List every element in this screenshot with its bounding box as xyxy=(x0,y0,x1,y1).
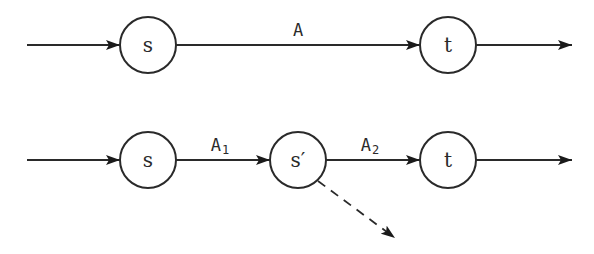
top-node-t-label: t xyxy=(444,33,452,57)
bottom-node-s-label: s xyxy=(143,148,153,172)
bottom-edge-label-a1: A1 xyxy=(211,135,229,157)
bottom-node-s-prime-label: s′ xyxy=(291,148,306,172)
bottom-node-t-label: t xyxy=(444,148,452,172)
bottom-dashed-exit-edge xyxy=(318,181,395,238)
top-node-s: s xyxy=(120,17,176,73)
top-node-s-label: s xyxy=(143,33,153,57)
top-edge-label-a: A xyxy=(293,20,303,40)
top-row: A s t xyxy=(27,17,572,73)
bottom-node-s: s xyxy=(120,132,176,188)
diagram-canvas: A s t A1 A2 s s′ t xyxy=(0,0,594,254)
bottom-row: A1 A2 s s′ t xyxy=(27,132,572,238)
top-node-t: t xyxy=(420,17,476,73)
bottom-edge-label-a2: A2 xyxy=(361,135,379,157)
bottom-node-t: t xyxy=(420,132,476,188)
bottom-node-s-prime: s′ xyxy=(270,132,326,188)
